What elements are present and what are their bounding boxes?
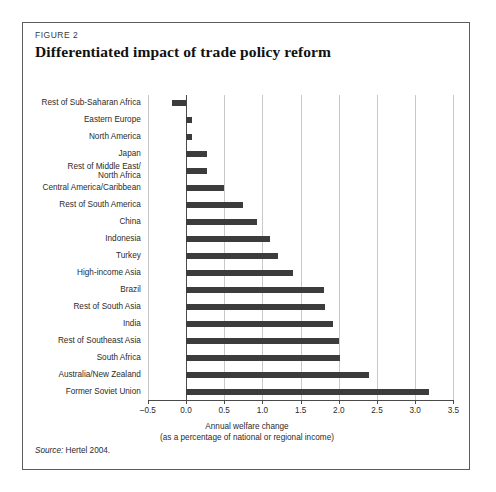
bar — [186, 219, 257, 225]
x-axis-tick-label: 0.0 — [180, 406, 191, 415]
x-axis-tick-label: 2.5 — [371, 406, 382, 415]
source-note: Source: Hertel 2004. — [35, 446, 110, 455]
category-label-line: Rest of Middle East/ — [68, 162, 141, 171]
category-label: Rest of Sub-Saharan Africa — [42, 99, 141, 108]
category-label: Rest of Middle East/North Africa — [68, 162, 141, 180]
gridline — [453, 95, 454, 400]
x-axis-tick — [148, 400, 149, 404]
bar — [186, 151, 207, 157]
category-label: Turkey — [116, 251, 141, 260]
category-label: Australia/New Zealand — [58, 370, 140, 379]
figure-header: FIGURE 2 Differentiated impact of trade … — [23, 23, 469, 65]
x-axis-tick-label: 1.0 — [257, 406, 268, 415]
x-axis-tick-label: 0.5 — [218, 406, 229, 415]
category-label: China — [119, 217, 140, 226]
bar — [186, 117, 192, 123]
bar — [186, 287, 324, 293]
category-label: South Africa — [97, 353, 141, 362]
bar — [186, 355, 340, 361]
bar — [186, 253, 278, 259]
category-label: Rest of South America — [59, 201, 140, 210]
figure-frame: FIGURE 2 Differentiated impact of trade … — [22, 22, 470, 470]
x-axis-title-line1: Annual welfare change — [205, 422, 288, 431]
x-axis-tick-label: 1.5 — [295, 406, 306, 415]
chart-plot-area: Rest of Sub-Saharan AfricaEastern Europe… — [148, 95, 454, 400]
x-axis-tick-label: 3.0 — [409, 406, 420, 415]
figure-title: Differentiated impact of trade policy re… — [35, 42, 457, 61]
bar — [186, 134, 192, 140]
x-axis-tick — [453, 400, 454, 404]
category-label: Brazil — [120, 285, 140, 294]
x-axis-tick-label: 3.5 — [448, 406, 459, 415]
bar — [186, 389, 429, 395]
x-axis-tick — [415, 400, 416, 404]
bar — [186, 168, 207, 174]
category-label: Rest of South Asia — [73, 302, 140, 311]
bar — [186, 270, 293, 276]
category-label: Central America/Caribbean — [42, 184, 140, 193]
bar — [186, 304, 325, 310]
category-label: High-income Asia — [77, 268, 141, 277]
gridline — [415, 95, 416, 400]
bar — [172, 100, 186, 106]
figure-number-label: FIGURE 2 — [35, 30, 457, 41]
x-axis-tick — [186, 400, 187, 404]
category-label: India — [123, 319, 141, 328]
x-axis-tick — [377, 400, 378, 404]
category-label: North America — [89, 133, 141, 142]
x-axis-tick-label: 2.0 — [333, 406, 344, 415]
category-label-line: North Africa — [68, 171, 141, 180]
category-label: Eastern Europe — [84, 116, 141, 125]
x-axis-title: Annual welfare change (as a percentage o… — [23, 421, 471, 443]
x-axis-tick — [339, 400, 340, 404]
bar — [186, 338, 339, 344]
source-label: Source: — [35, 446, 63, 455]
category-label: Rest of Southeast Asia — [58, 336, 141, 345]
x-axis-title-line2: (as a percentage of national or regional… — [23, 432, 471, 443]
bar — [186, 372, 369, 378]
category-label: Indonesia — [105, 234, 141, 243]
x-axis-tick — [262, 400, 263, 404]
bar — [186, 236, 270, 242]
category-label: Former Soviet Union — [66, 387, 141, 396]
gridline — [377, 95, 378, 400]
bar — [186, 185, 224, 191]
source-text: Hertel 2004. — [66, 446, 111, 455]
gridline — [148, 95, 149, 400]
category-label: Japan — [118, 150, 140, 159]
x-axis-tick — [224, 400, 225, 404]
x-axis-tick-label: –0.5 — [140, 406, 156, 415]
chart-plot-wrapper: Rest of Sub-Saharan AfricaEastern Europe… — [23, 71, 471, 421]
x-axis-tick — [301, 400, 302, 404]
bar — [186, 321, 333, 327]
bar — [186, 202, 243, 208]
